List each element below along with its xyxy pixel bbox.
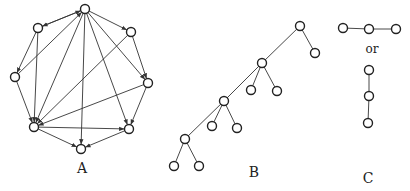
node [30,123,39,132]
edge [302,30,313,49]
node [127,28,136,37]
node [233,124,242,133]
node [125,125,134,134]
node [365,25,374,34]
edge [188,104,221,136]
node [77,145,86,154]
node [365,66,374,75]
edge [85,131,125,148]
edge [17,32,36,73]
panel-b-tree: B [170,22,320,181]
node [392,25,401,34]
node [81,5,90,14]
node [11,73,20,82]
node [170,162,179,171]
panel-c-path-graphs: Cor [339,24,401,187]
node [273,87,282,96]
node [364,119,373,128]
node [296,22,305,31]
node [181,135,190,144]
edge [253,67,261,86]
node [144,79,153,88]
node [34,24,43,33]
node [208,122,217,131]
panel-label: A [76,160,88,176]
panel-a-directed-graph: A [11,5,153,177]
panel-label: B [249,164,259,180]
edge [264,67,275,87]
edge [38,129,77,147]
edge [17,81,33,123]
edge [214,105,222,122]
graph-figure: A B Cor [0,0,410,191]
node [247,86,256,95]
edge [38,85,144,126]
edge [265,29,297,60]
edge [34,32,38,122]
node [365,92,374,101]
edge [176,143,184,162]
node [258,59,267,68]
panel-label: C [363,170,374,186]
edge [226,105,235,124]
node [339,24,348,33]
node [220,97,229,106]
edge [187,143,197,162]
edge [131,87,147,125]
node [195,162,204,171]
or-text: or [366,42,379,56]
edge [347,28,364,29]
edge [18,12,82,74]
node [311,49,320,58]
edge [368,100,369,118]
